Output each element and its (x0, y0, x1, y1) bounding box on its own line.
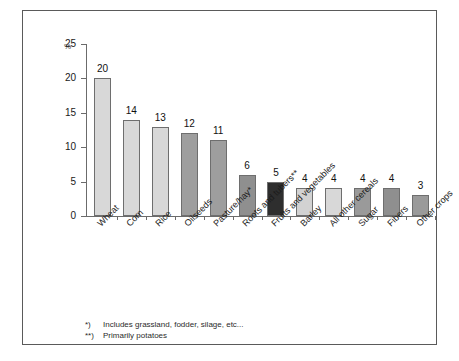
y-axis-tick-label: 5 (54, 177, 76, 187)
y-axis-tick (81, 147, 86, 148)
y-axis-tick-label: 25 (54, 39, 76, 49)
bar-rect (123, 120, 140, 216)
x-axis-tick (435, 216, 436, 220)
plot-area: 0510152025 20141312116544443 (86, 44, 433, 216)
x-axis-tick (319, 216, 320, 220)
y-axis-tick-label: 15 (54, 108, 76, 118)
x-axis-tick (175, 216, 176, 220)
chart-frame: % 0510152025 20141312116544443 WheatCorn… (22, 10, 437, 345)
x-axis-tick (117, 216, 118, 220)
bar (181, 44, 198, 216)
x-axis-tick (406, 216, 407, 220)
x-axis-tick (146, 216, 147, 220)
bar-value-label: 6 (240, 161, 254, 171)
footnote-row: *)Includes grassland, fodder, silage, et… (85, 319, 244, 330)
bar-rect (152, 127, 169, 216)
x-axis-tick (290, 216, 291, 220)
bar-value-label: 20 (95, 64, 109, 74)
bar-value-label: 14 (124, 106, 138, 116)
bar-rect (181, 133, 198, 216)
y-axis-tick (81, 78, 86, 79)
y-axis-tick (81, 216, 86, 217)
footnote-row: **)Primarily potatoes (85, 330, 244, 341)
y-axis-tick-label: 20 (54, 73, 76, 83)
footnote-text: Includes grassland, fodder, silage, etc.… (103, 319, 244, 330)
y-axis-tick (81, 113, 86, 114)
bar (152, 44, 169, 216)
y-axis-tick (81, 182, 86, 183)
bar (383, 44, 400, 216)
footnotes: *)Includes grassland, fodder, silage, et… (85, 319, 244, 341)
x-axis-tick (204, 216, 205, 220)
y-axis-tick (81, 44, 86, 45)
bar-value-label: 11 (211, 126, 225, 136)
x-axis-tick (348, 216, 349, 220)
y-axis-tick-label: 0 (54, 211, 76, 221)
bar-value-label: 4 (327, 174, 341, 184)
footnote-text: Primarily potatoes (103, 330, 167, 341)
y-axis-tick-label: 10 (54, 142, 76, 152)
bar (325, 44, 342, 216)
bar-value-label: 3 (414, 181, 428, 191)
footnote-marker: **) (85, 330, 103, 341)
x-axis-tick (262, 216, 263, 220)
x-axis-tick (233, 216, 234, 220)
y-axis-line (86, 44, 87, 216)
footnote-marker: *) (85, 319, 103, 330)
bar-value-label: 4 (385, 174, 399, 184)
bar-value-label: 5 (269, 168, 283, 178)
bar-value-label: 12 (182, 119, 196, 129)
x-axis-tick (377, 216, 378, 220)
bar (123, 44, 140, 216)
bar-rect (94, 78, 111, 216)
bar-value-label: 13 (153, 113, 167, 123)
